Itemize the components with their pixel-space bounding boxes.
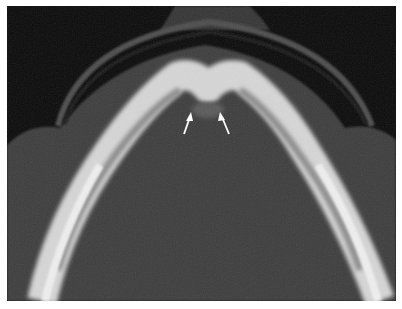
ct-scan-image <box>7 6 396 301</box>
ct-scan-svg <box>7 6 396 301</box>
noise-overlay <box>7 6 396 301</box>
